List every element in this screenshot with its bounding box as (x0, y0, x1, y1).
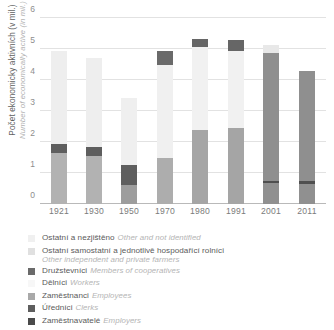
x-axis-tick-2011: 2011 (297, 206, 316, 216)
bar-segment-employers[interactable] (263, 183, 279, 204)
bar-segment-coops[interactable] (157, 51, 173, 65)
legend-label-cz: ÚředníciClerks (42, 303, 98, 313)
bar-segment-clerks[interactable] (86, 147, 102, 156)
bar-1970[interactable] (157, 18, 173, 204)
bar-series (40, 18, 326, 204)
legend-label-group: ZaměstnanciEmployees (42, 291, 131, 301)
bar-1930[interactable] (86, 18, 102, 204)
x-axis-tick-1950: 1950 (119, 206, 139, 216)
legend-item[interactable]: DělníciWorkers (28, 278, 328, 289)
bar-1950[interactable] (121, 18, 137, 204)
legend-label-group: ZaměstnavateléEmployers (42, 316, 141, 326)
legend-label-group: ÚředníciClerks (42, 303, 98, 313)
bar-1980[interactable] (192, 18, 208, 204)
legend-swatch-icon (28, 318, 35, 325)
bar-segment-farmers[interactable] (192, 47, 208, 130)
chart-legend: Ostatní a nezjištěnoOther and not identi… (28, 233, 328, 328)
legend-label-cz: DělníciWorkers (42, 278, 100, 288)
legend-item[interactable]: Ostatní samostatní a jednotlivě hospodař… (28, 246, 328, 265)
legend-swatch-icon (28, 293, 35, 300)
legend-swatch-icon (28, 248, 35, 255)
y-axis-tick: 6 (30, 4, 35, 14)
legend-label-cz: Ostatní a nezjištěnoOther and not identi… (42, 233, 201, 243)
bar-2001[interactable] (263, 18, 279, 204)
bar-segment-other[interactable] (263, 45, 279, 52)
bar-segment-farmers[interactable] (86, 58, 102, 148)
legend-item[interactable]: ZaměstnanciEmployees (28, 291, 328, 302)
legend-swatch-icon (28, 280, 35, 287)
bar-1921[interactable] (51, 18, 67, 204)
plot-area: 0123456 (40, 18, 326, 204)
legend-item[interactable]: ZaměstnavateléEmployers (28, 316, 328, 327)
legend-label-group: DružstevníciMembers of cooperatives (42, 266, 180, 276)
legend-label-en: Employees (92, 291, 131, 300)
legend-label-cz: Ostatní samostatní a jednotlivě hospodař… (42, 246, 224, 256)
legend-swatch-icon (28, 305, 35, 312)
bar-segment-workers[interactable] (51, 153, 67, 204)
legend-item[interactable]: ÚředníciClerks (28, 303, 328, 314)
bar-1991[interactable] (228, 18, 244, 204)
legend-label-en: Members of cooperatives (90, 266, 180, 275)
legend-label-group: Ostatní samostatní a jednotlivě hospodař… (42, 246, 224, 265)
bar-segment-farmers[interactable] (121, 98, 137, 166)
bar-segment-clerks[interactable] (121, 165, 137, 185)
bar-segment-workers[interactable] (228, 128, 244, 204)
bar-segment-employees[interactable] (299, 71, 315, 182)
bar-segment-farmers[interactable] (157, 65, 173, 157)
bar-segment-clerks[interactable] (51, 144, 67, 153)
x-axis-tick-2001: 2001 (261, 206, 281, 216)
bar-2011[interactable] (299, 18, 315, 204)
bar-segment-farmers[interactable] (228, 51, 244, 128)
x-axis-labels: 19211930195019701980199120012011 (40, 206, 326, 220)
legend-item[interactable]: Ostatní a nezjištěnoOther and not identi… (28, 233, 328, 244)
bar-segment-clerks[interactable] (263, 181, 279, 183)
legend-label-en: Workers (70, 278, 100, 287)
y-axis-title-cz: Počet ekonomicky aktivních (v mil.) (8, 0, 18, 160)
legend-item[interactable]: DružstevníciMembers of cooperatives (28, 266, 328, 277)
x-axis-tick-1970: 1970 (155, 206, 175, 216)
legend-swatch-icon (28, 268, 35, 275)
bar-segment-clerks[interactable] (299, 181, 315, 183)
legend-label-en: Other and not identified (118, 233, 201, 242)
bar-segment-employees[interactable] (263, 53, 279, 181)
y-axis-title: Počet ekonomicky aktivních (v mil.) Numb… (8, 0, 28, 160)
legend-label-en: Employers (103, 316, 141, 325)
bar-segment-workers[interactable] (86, 156, 102, 204)
bar-segment-coops[interactable] (192, 39, 208, 46)
y-axis-tick: 0 (30, 190, 35, 200)
y-axis-title-en: Number of economically active (in mil.) (18, 0, 28, 160)
legend-label-en: Other independent and private farmers (42, 255, 224, 264)
legend-label-group: DělníciWorkers (42, 278, 100, 288)
legend-label-cz: ZaměstnanciEmployees (42, 291, 131, 301)
bar-segment-coops[interactable] (228, 40, 244, 51)
x-axis-tick-1921: 1921 (49, 206, 69, 216)
y-axis-tick: 5 (30, 35, 35, 45)
bar-segment-workers[interactable] (157, 158, 173, 205)
y-axis-tick: 3 (30, 97, 35, 107)
bar-segment-workers[interactable] (121, 185, 137, 204)
legend-label-group: Ostatní a nezjištěnoOther and not identi… (42, 233, 201, 243)
y-axis-tick: 1 (30, 159, 35, 169)
y-axis-tick: 2 (30, 128, 35, 138)
legend-swatch-icon (28, 235, 35, 242)
x-axis-tick-1930: 1930 (84, 206, 104, 216)
x-axis-tick-1980: 1980 (190, 206, 210, 216)
bar-segment-farmers[interactable] (51, 51, 67, 145)
y-axis-tick: 4 (30, 66, 35, 76)
chart-figure: Počet ekonomicky aktivních (v mil.) Numb… (0, 0, 334, 330)
x-axis-tick-1991: 1991 (226, 206, 246, 216)
legend-label-en: Clerks (76, 303, 99, 312)
bar-segment-employers[interactable] (299, 184, 315, 204)
legend-label-cz: ZaměstnavateléEmployers (42, 316, 141, 326)
bar-segment-workers[interactable] (192, 130, 208, 204)
legend-label-cz: DružstevníciMembers of cooperatives (42, 266, 180, 276)
